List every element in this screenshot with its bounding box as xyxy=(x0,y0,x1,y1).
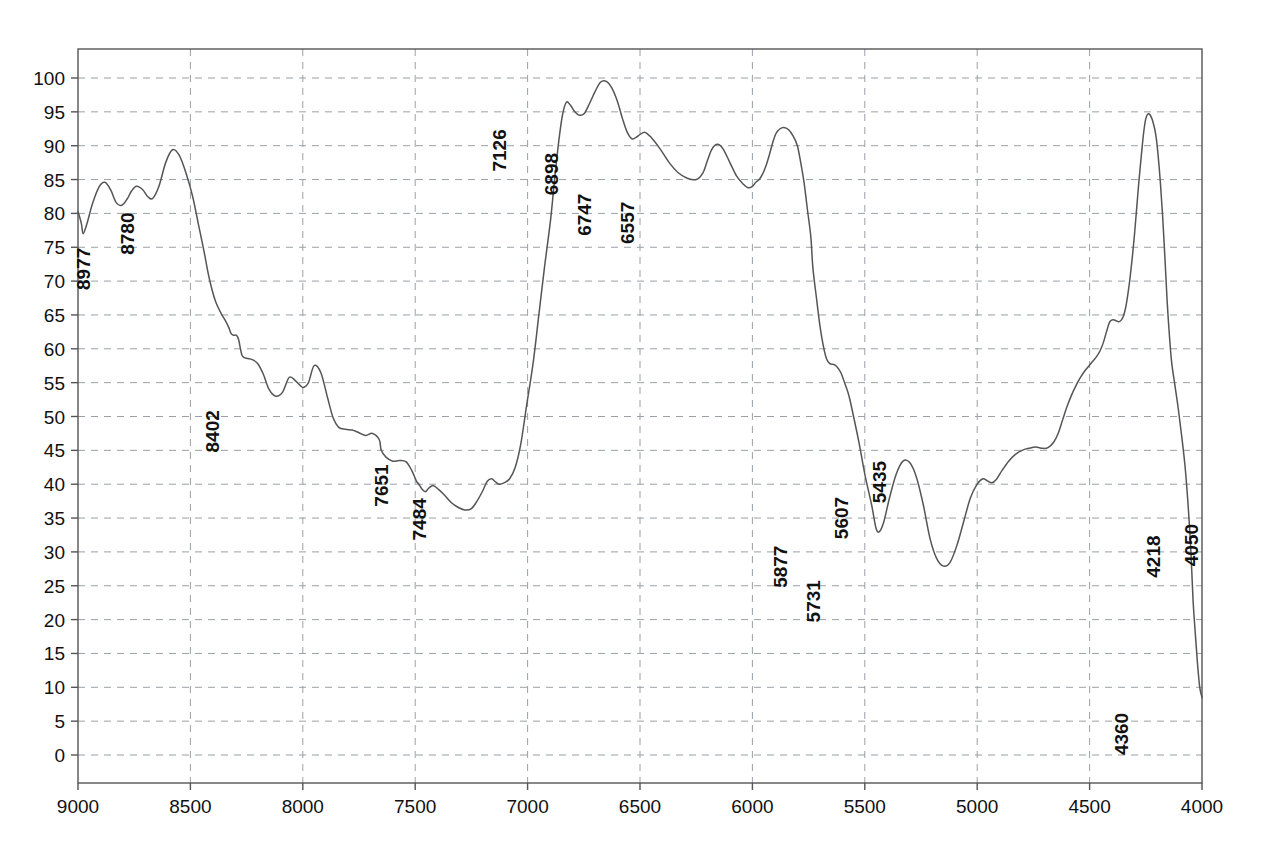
y-axis-tick-labels: 1009590858075706560555045403530252015105… xyxy=(33,68,65,766)
x-tick-label: 7500 xyxy=(394,796,436,817)
peak-label: 5731 xyxy=(803,580,824,623)
axis-ticks xyxy=(71,78,1202,790)
y-tick-label: 90 xyxy=(44,136,65,157)
peak-label: 7126 xyxy=(489,129,510,171)
y-tick-label: 5 xyxy=(54,711,65,732)
x-tick-label: 6000 xyxy=(731,796,773,817)
peak-label: 4218 xyxy=(1143,535,1164,577)
y-tick-label: 50 xyxy=(44,407,65,428)
peak-label: 5435 xyxy=(869,461,890,504)
peak-label: 4050 xyxy=(1181,524,1202,566)
y-tick-label: 35 xyxy=(44,508,65,529)
y-tick-label: 0 xyxy=(54,745,65,766)
x-tick-label: 8500 xyxy=(169,796,211,817)
peak-label: 6557 xyxy=(617,202,638,244)
y-tick-label: 25 xyxy=(44,576,65,597)
y-tick-label: 85 xyxy=(44,170,65,191)
x-tick-label: 4500 xyxy=(1068,796,1110,817)
peak-annotations: 8977878084027651748471266898674765575877… xyxy=(73,129,1202,755)
y-tick-label: 10 xyxy=(44,677,65,698)
y-tick-label: 100 xyxy=(33,68,65,89)
x-tick-label: 5000 xyxy=(956,796,998,817)
peak-label: 6747 xyxy=(574,194,595,236)
x-tick-label: 9000 xyxy=(57,796,99,817)
y-tick-label: 15 xyxy=(44,643,65,664)
x-tick-label: 8000 xyxy=(282,796,324,817)
peak-label: 4360 xyxy=(1111,713,1132,755)
peak-label: 8977 xyxy=(73,248,94,290)
grid-lines xyxy=(78,49,1202,783)
peak-label: 5607 xyxy=(831,497,852,539)
peak-label: 8402 xyxy=(202,410,223,452)
y-tick-label: 45 xyxy=(44,440,65,461)
peak-label: 7484 xyxy=(409,498,430,541)
x-axis-tick-labels: 9000850080007500700065006000550050004500… xyxy=(57,796,1223,817)
x-tick-label: 5500 xyxy=(844,796,886,817)
chart-canvas: 1009590858075706560555045403530252015105… xyxy=(0,0,1269,855)
y-tick-label: 70 xyxy=(44,271,65,292)
y-tick-label: 30 xyxy=(44,542,65,563)
y-tick-label: 80 xyxy=(44,203,65,224)
y-tick-label: 40 xyxy=(44,474,65,495)
y-tick-label: 55 xyxy=(44,373,65,394)
x-tick-label: 4000 xyxy=(1181,796,1223,817)
y-tick-label: 20 xyxy=(44,610,65,631)
y-tick-label: 95 xyxy=(44,102,65,123)
peak-label: 7651 xyxy=(371,464,392,507)
y-tick-label: 60 xyxy=(44,339,65,360)
y-tick-label: 75 xyxy=(44,237,65,258)
x-tick-label: 6500 xyxy=(619,796,661,817)
peak-label: 8780 xyxy=(117,213,138,255)
peak-label: 5877 xyxy=(770,546,791,588)
peak-label: 6898 xyxy=(541,153,562,195)
y-tick-label: 65 xyxy=(44,305,65,326)
x-tick-label: 7000 xyxy=(506,796,548,817)
nir-spectrum-chart: 1009590858075706560555045403530252015105… xyxy=(0,0,1269,855)
